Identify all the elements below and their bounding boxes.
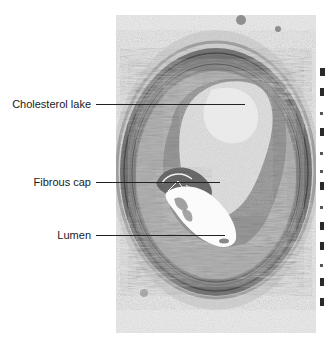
figure: Cholesterol lake Fibrous cap Lumen xyxy=(0,0,330,350)
label-cholesterol-lake: Cholesterol lake xyxy=(2,98,91,110)
artery-micrograph xyxy=(116,15,316,333)
leader-line-lumen xyxy=(96,235,225,236)
label-fibrous-cap: Fibrous cap xyxy=(2,176,91,188)
label-lumen: Lumen xyxy=(2,229,91,241)
leader-line-fibrous-cap xyxy=(96,182,220,183)
leader-line-cholesterol-lake xyxy=(96,104,245,105)
cropped-caption-fragments xyxy=(320,60,330,310)
